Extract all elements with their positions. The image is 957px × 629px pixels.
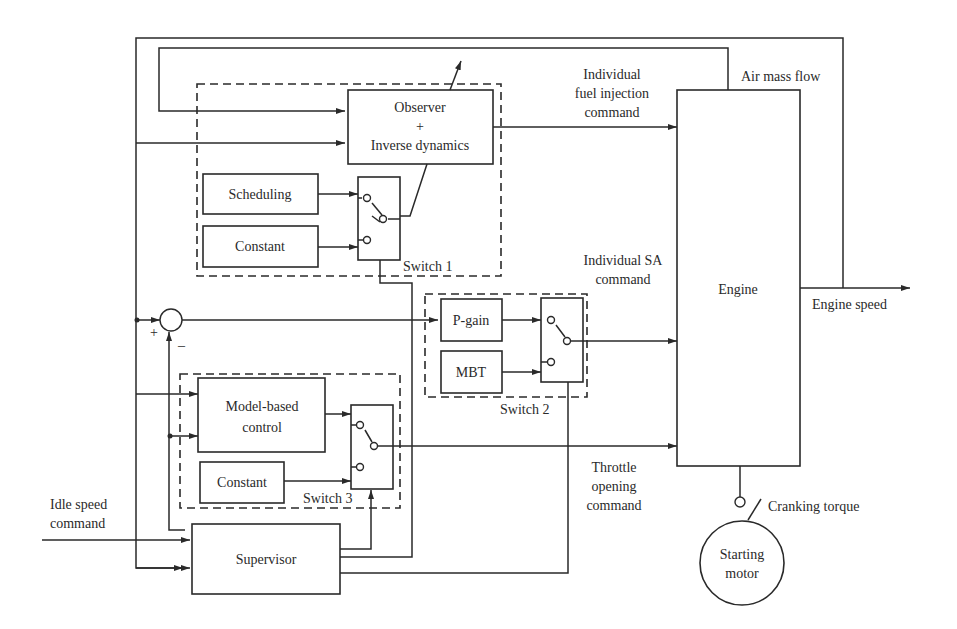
model-based-control-block[interactable] <box>198 378 325 452</box>
cranking-torque-leader <box>748 499 761 520</box>
sa-command-label-2: command <box>595 272 650 287</box>
minus-sign: – <box>177 338 186 353</box>
pgain-label: P-gain <box>453 313 490 328</box>
starting-motor-block[interactable] <box>700 521 784 605</box>
cranking-clutch-icon <box>735 497 745 507</box>
switch1-pin-a <box>364 195 371 202</box>
sa-command-label-1: Individual SA <box>584 253 664 268</box>
switch2-label: Switch 2 <box>500 402 549 417</box>
switch3-pin-b <box>357 464 364 471</box>
scheduling-label: Scheduling <box>229 187 292 202</box>
supervisor-label: Supervisor <box>236 552 297 567</box>
switch2-pin-b <box>548 359 555 366</box>
throttle-label-2: opening <box>591 479 636 494</box>
constant3-label: Constant <box>217 475 267 490</box>
plus-sign: + <box>150 325 158 340</box>
fuel-injection-label-1: Individual <box>583 67 641 82</box>
adaptation-arrow <box>450 61 461 90</box>
switch1-pin-b <box>364 237 371 244</box>
engine-speed-label: Engine speed <box>812 297 887 312</box>
air-mass-flow-label: Air mass flow <box>741 69 821 84</box>
switch1-pin-out <box>380 216 387 223</box>
switch3-pin-out <box>371 443 378 450</box>
idle-speed-control-diagram: Observer + Inverse dynamics Scheduling C… <box>0 0 957 629</box>
junction-dot <box>135 318 140 323</box>
mbt-label: MBT <box>456 365 487 380</box>
idle-speed-label-2: command <box>50 516 105 531</box>
reference-to-sum-wire <box>169 332 185 530</box>
throttle-label-1: Throttle <box>591 460 636 475</box>
junction-dot-2 <box>168 434 173 439</box>
switch1-label: Switch 1 <box>403 259 452 274</box>
switch2-pin-out <box>564 338 571 345</box>
starting-motor-label-1: Starting <box>720 547 764 562</box>
engine-block[interactable] <box>677 90 800 466</box>
constant1-label: Constant <box>235 239 285 254</box>
summing-junction <box>160 309 182 331</box>
switch2-block[interactable] <box>541 298 583 382</box>
engine-label: Engine <box>718 282 758 297</box>
cranking-torque-label: Cranking torque <box>768 499 859 514</box>
switch3-pin-a <box>357 422 364 429</box>
observer-label: Observer <box>394 100 446 115</box>
idle-speed-label-1: Idle speed <box>50 497 107 512</box>
switch2-pin-a <box>548 317 555 324</box>
fuel-injection-label-3: command <box>584 105 639 120</box>
throttle-label-3: command <box>586 498 641 513</box>
mbc-label-1: Model-based <box>225 399 298 414</box>
fuel-injection-label-2: fuel injection <box>575 86 649 101</box>
switch3-label: Switch 3 <box>303 491 352 506</box>
inverse-dynamics-label: Inverse dynamics <box>371 138 469 153</box>
starting-motor-label-2: motor <box>725 566 759 581</box>
mbc-label-2: control <box>242 420 282 435</box>
observer-plus-label: + <box>416 119 424 134</box>
switch1-to-observer-wire <box>400 164 427 216</box>
